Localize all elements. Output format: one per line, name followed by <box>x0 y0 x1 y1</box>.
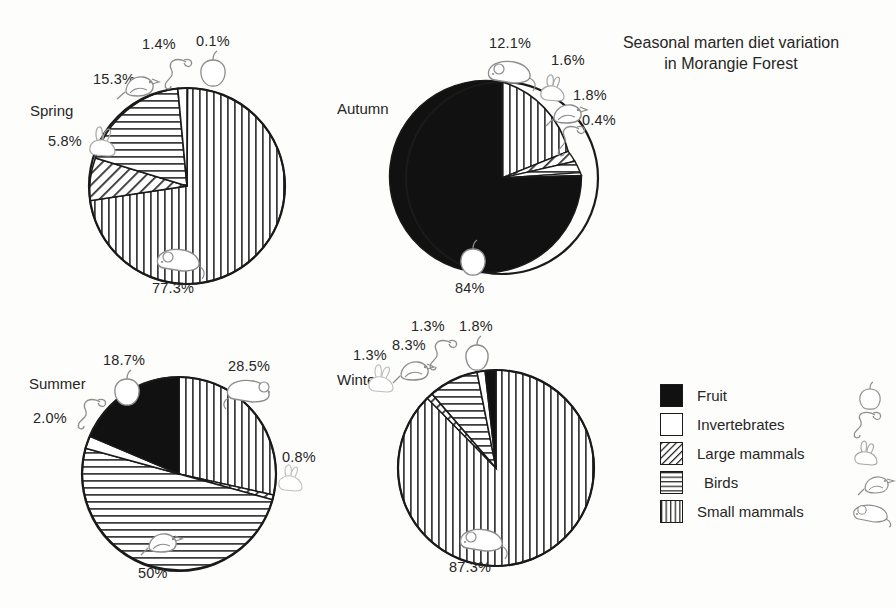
legend-label-invertebrates: Invertebrates <box>697 416 847 433</box>
season-label-autumn: Autumn <box>337 100 389 117</box>
season-label-summer: Summer <box>29 375 86 392</box>
worm-icon <box>553 122 595 160</box>
figure-canvas: Spring 1.4% 0.1% 15.3% 5.8% 77.3% <box>0 0 896 608</box>
rabbit-icon <box>847 439 893 469</box>
legend-swatch-large-mammals <box>660 442 683 465</box>
legend-label-birds: Birds <box>697 474 854 491</box>
mouse-icon <box>483 53 537 93</box>
legend-label-large-mammals: Large mammals <box>697 445 847 462</box>
label-spring-fruit: 0.1% <box>196 33 230 49</box>
label-autumn-fruit: 84% <box>455 280 485 296</box>
apple-icon <box>847 381 893 411</box>
legend-swatch-fruit <box>660 384 683 407</box>
bird-icon <box>116 66 160 104</box>
mouse-icon <box>222 372 276 412</box>
mouse-icon <box>152 240 208 282</box>
legend-item-invertebrates: Invertebrates <box>660 410 896 439</box>
bird-icon <box>854 468 896 498</box>
legend-item-birds: Birds <box>660 468 896 497</box>
season-label-spring: Spring <box>30 102 73 119</box>
label-spring-large-mammals: 5.8% <box>48 133 82 149</box>
label-winter-invertebrates: 1.3% <box>411 318 445 334</box>
bird-icon <box>140 524 184 562</box>
legend-swatch-small-mammals <box>660 500 683 523</box>
rabbit-icon <box>273 462 311 498</box>
chart-title-line1: Seasonal marten diet variation <box>586 32 876 53</box>
legend-item-small-mammals: Small mammals <box>660 497 896 526</box>
label-spring-invertebrates: 1.4% <box>142 36 176 52</box>
label-winter-fruit: 1.8% <box>459 318 493 334</box>
label-autumn-small-mammals: 12.1% <box>489 35 531 51</box>
worm-icon <box>847 410 893 440</box>
rabbit-icon <box>84 125 124 163</box>
rabbit-icon <box>363 362 403 400</box>
chart-title-line2: in Morangie Forest <box>586 53 876 74</box>
legend-item-fruit: Fruit <box>660 381 896 410</box>
apple-icon <box>196 50 230 90</box>
legend-swatch-invertebrates <box>660 413 683 436</box>
worm-icon <box>160 54 200 94</box>
worm-icon <box>75 398 117 436</box>
label-winter-large-mammals: 1.3% <box>353 347 387 363</box>
chart-title: Seasonal marten diet variation in Morang… <box>586 32 876 74</box>
legend-item-large-mammals: Large mammals <box>660 439 896 468</box>
label-summer-invertebrates: 2.0% <box>33 410 67 426</box>
legend: Fruit Invertebrates Large mammals <box>660 381 896 526</box>
mouse-icon <box>455 520 509 562</box>
legend-label-small-mammals: Small mammals <box>697 503 847 520</box>
label-autumn-large-mammals: 1.6% <box>551 52 585 68</box>
label-summer-birds: 50% <box>138 565 168 581</box>
label-summer-fruit: 18.7% <box>103 352 145 368</box>
mouse-icon <box>847 497 893 527</box>
legend-swatch-birds <box>660 471 683 494</box>
apple-icon <box>456 238 490 280</box>
apple-icon <box>461 335 493 375</box>
legend-label-fruit: Fruit <box>697 387 847 404</box>
label-winter-birds: 8.3% <box>392 337 426 353</box>
label-spring-small-mammals: 77.3% <box>152 280 194 296</box>
